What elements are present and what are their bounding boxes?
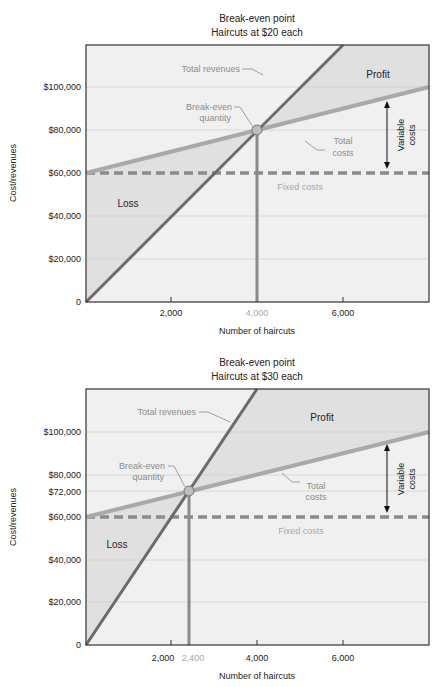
annotation-fixed-costs: Fixed costs: [277, 182, 323, 192]
svg-text:$20,000: $20,000: [48, 254, 81, 264]
y-axis-label: Cost/revenues: [8, 487, 18, 546]
annotation-total-costs-1: Total: [333, 136, 352, 146]
annotation-profit: Profit: [366, 69, 390, 80]
svg-text:4,000: 4,000: [246, 308, 269, 318]
svg-text:2,000: 2,000: [152, 653, 175, 663]
svg-text:6,000: 6,000: [332, 308, 355, 318]
svg-text:2,000: 2,000: [160, 308, 183, 318]
chart-subtitle: Haircuts at $20 each: [211, 27, 303, 38]
y-axis-ticks: 0 $20,000 $40,000 $60,000 $72,000 $80,00…: [43, 427, 81, 650]
annotation-variable-costs-2: costs: [407, 468, 417, 490]
chart-canvas: Break-even point Haircuts at $20 each To…: [0, 0, 444, 340]
svg-text:$80,000: $80,000: [48, 470, 81, 480]
x-axis-label: Number of haircuts: [219, 326, 296, 336]
annotation-total-costs-2: costs: [332, 148, 354, 158]
annotation-loss: Loss: [117, 198, 138, 209]
annotation-profit: Profit: [310, 412, 334, 423]
svg-text:$60,000: $60,000: [48, 168, 81, 178]
x-axis-ticks: 2,000 4,000 6,000: [160, 308, 355, 318]
svg-text:$80,000: $80,000: [48, 125, 81, 135]
svg-text:$100,000: $100,000: [43, 427, 81, 437]
annotation-break-even-1: Break-even: [119, 461, 165, 471]
annotation-variable-costs-2: costs: [407, 124, 417, 146]
x-axis-ticks: 2,000 2,400 4,000 6,000: [152, 653, 355, 663]
svg-text:$20,000: $20,000: [48, 597, 81, 607]
svg-text:$60,000: $60,000: [48, 512, 81, 522]
chart-canvas: Break-even point Haircuts at $30 each To…: [0, 340, 444, 687]
chart-title: Break-even point: [219, 357, 295, 368]
annotation-fixed-costs: Fixed costs: [278, 526, 324, 536]
annotation-variable-costs-1: Variable: [396, 119, 406, 151]
annotation-total-revenues: Total revenues: [181, 64, 240, 74]
svg-text:$40,000: $40,000: [48, 555, 81, 565]
x-axis-label: Number of haircuts: [219, 671, 296, 681]
break-even-point: [184, 486, 194, 496]
annotation-break-even-2: quantity: [132, 472, 164, 482]
svg-text:2,400: 2,400: [182, 653, 205, 663]
svg-text:$40,000: $40,000: [48, 211, 81, 221]
svg-text:0: 0: [76, 640, 81, 650]
y-axis-ticks: 0 $20,000 $40,000 $60,000 $80,000 $100,0…: [43, 82, 81, 307]
break-even-point: [252, 125, 262, 135]
annotation-total-revenues: Total revenues: [137, 407, 196, 417]
svg-text:$100,000: $100,000: [43, 82, 81, 92]
chart-title: Break-even point: [219, 13, 295, 24]
annotation-total-costs-2: costs: [305, 492, 327, 502]
chart-subtitle: Haircuts at $30 each: [211, 371, 303, 382]
annotation-variable-costs-1: Variable: [396, 463, 406, 495]
annotation-break-even-1: Break-even: [186, 102, 232, 112]
svg-text:$72,000: $72,000: [48, 487, 81, 497]
annotation-break-even-2: quantity: [199, 113, 231, 123]
svg-text:6,000: 6,000: [332, 653, 355, 663]
svg-text:0: 0: [76, 297, 81, 307]
annotation-loss: Loss: [106, 539, 127, 550]
annotation-total-costs-1: Total: [306, 481, 325, 491]
svg-text:4,000: 4,000: [246, 653, 269, 663]
break-even-chart-20: Break-even point Haircuts at $20 each To…: [0, 0, 444, 340]
break-even-chart-30: Break-even point Haircuts at $30 each To…: [0, 340, 444, 687]
y-axis-label: Cost/revenues: [8, 143, 18, 202]
